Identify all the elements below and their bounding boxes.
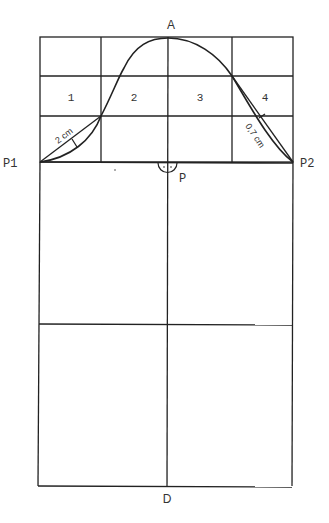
- mid-line: [39, 324, 292, 325]
- grid-cell-label-3: 3: [197, 92, 204, 104]
- right-angle-dot: [163, 166, 165, 168]
- measurement-left: 2 cm: [53, 126, 75, 146]
- left-measure-tick: [72, 139, 77, 147]
- grid-cell-label-2: 2: [131, 92, 138, 104]
- bottom-line: [38, 486, 292, 487]
- point-label-p2: P2: [300, 157, 314, 171]
- left-guide-line: [40, 116, 101, 162]
- grid-cell-label-1: 1: [68, 92, 75, 104]
- center-line: [167, 37, 168, 486]
- point-label-p1: P1: [3, 157, 17, 171]
- point-label-a: A: [167, 18, 175, 32]
- point-label-d: D: [163, 492, 172, 506]
- sleeve-pattern-diagram: A P1 P2 P D 1 2 3 4 2 cm 0,7 cm: [0, 0, 329, 523]
- marker-dot: [114, 169, 116, 171]
- base-line-p1-p2: [40, 162, 293, 163]
- right-angle-dot: [170, 166, 172, 168]
- point-label-p: P: [179, 172, 186, 186]
- right-edge: [292, 162, 293, 486]
- right-guide-line: [232, 76, 293, 162]
- measurement-right: 0,7 cm: [243, 122, 266, 150]
- grid-cell-label-4: 4: [262, 92, 269, 104]
